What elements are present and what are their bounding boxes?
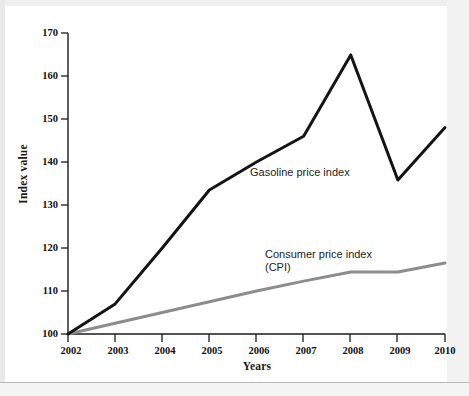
x-tick-label-2005: 2005: [191, 345, 233, 356]
y-tick-label-100: 100: [28, 328, 58, 339]
x-tick-label-2010: 2010: [424, 345, 466, 356]
x-axis-ticks: [68, 334, 445, 342]
y-tick-label-160: 160: [28, 70, 58, 81]
page-canvas: 170 160 150 140 130 120 110 100 2002 200…: [0, 0, 469, 396]
y-axis-title: Index value: [17, 129, 29, 219]
y-tick-label-170: 170: [28, 27, 58, 38]
y-tick-label-130: 130: [28, 199, 58, 210]
series-annotation-cpi: Consumer price index(CPI): [265, 248, 372, 274]
x-tick-label-2008: 2008: [332, 345, 374, 356]
y-tick-label-150: 150: [28, 113, 58, 124]
y-axis-ticks: [61, 33, 68, 334]
series-annotation-gasoline: Gasoline price index: [250, 166, 350, 179]
x-tick-label-2006: 2006: [238, 345, 280, 356]
y-tick-label-110: 110: [28, 285, 58, 296]
x-tick-label-2007: 2007: [285, 345, 327, 356]
chart-plot-area: [0, 0, 469, 396]
series-line-consumer-price-index: [68, 263, 445, 334]
axis-lines: [68, 33, 445, 334]
y-tick-label-120: 120: [28, 242, 58, 253]
x-tick-label-2003: 2003: [97, 345, 139, 356]
line-chart-figure: 170 160 150 140 130 120 110 100 2002 200…: [0, 0, 469, 396]
cpi-annotation-line-2: (CPI): [265, 261, 291, 273]
x-tick-label-2004: 2004: [144, 345, 186, 356]
x-tick-label-2002: 2002: [50, 345, 92, 356]
x-axis-title: Years: [68, 360, 446, 372]
x-tick-label-2009: 2009: [379, 345, 421, 356]
y-tick-label-140: 140: [28, 156, 58, 167]
cpi-annotation-line-1: Consumer price index: [265, 248, 372, 260]
